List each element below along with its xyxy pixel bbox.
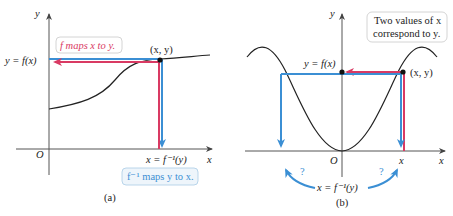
callout-line-2: correspond to y.	[373, 28, 440, 39]
origin-label-a: O	[36, 149, 44, 160]
x-tick-label-b: x	[398, 155, 404, 166]
point-label-a: (x, y)	[150, 44, 173, 56]
point-label-b: (x, y)	[410, 67, 433, 79]
callout-forward-text: f maps x to y.	[60, 40, 115, 51]
caption-a: (a)	[104, 192, 116, 204]
function-curve-a	[49, 55, 210, 109]
caption-b: (b)	[336, 197, 349, 209]
y-axis-label-b: y	[329, 8, 335, 19]
callout-line-1: Two values of x	[374, 15, 442, 26]
panel-b: y x O x y = f(x) (x, y) x = f⁻¹(y) ? ? T…	[245, 8, 447, 209]
inverse-label-b: x = f⁻¹(y)	[316, 182, 358, 194]
y-value-label-a: y = f(x)	[4, 55, 37, 67]
y-value-label-b: y = f(x)	[303, 58, 336, 70]
question-left: ?	[300, 166, 305, 177]
x-value-label-a: x = f⁻¹(y)	[145, 154, 187, 166]
point-xy-b	[400, 69, 405, 74]
question-right: ?	[379, 166, 384, 177]
x-axis-label-b: x	[438, 155, 444, 166]
panel-a: y x O y = f(x) (x, y) x = f⁻¹(y) f maps …	[4, 8, 212, 204]
y-axis-label-a: y	[34, 8, 40, 19]
x-axis-label-a: x	[206, 154, 212, 165]
origin-label-b: O	[330, 155, 338, 166]
inverse-function-diagram: y x O y = f(x) (x, y) x = f⁻¹(y) f maps …	[0, 0, 453, 216]
point-xy-a	[157, 57, 162, 62]
point-y-axis-b	[339, 69, 344, 74]
callout-inverse-text: f⁻¹ maps y to x.	[127, 171, 194, 182]
